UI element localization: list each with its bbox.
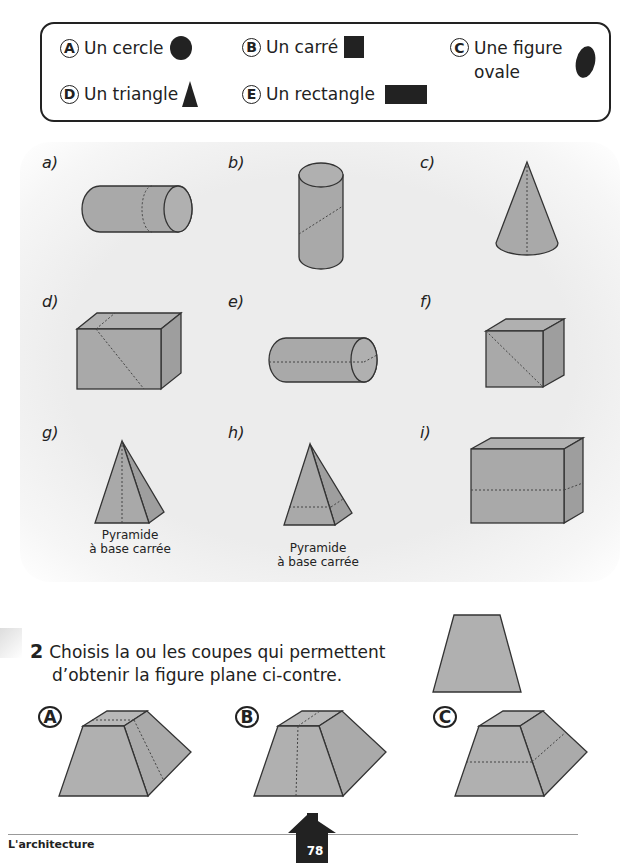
cylinder-e-icon: [268, 337, 383, 387]
question-2: 2Choisis la ou les coupes qui permettent…: [30, 640, 385, 687]
caption-line2: à base carrée: [277, 555, 359, 569]
cylinder-a-icon: [80, 185, 195, 240]
pyramid-g-icon: [94, 440, 166, 525]
rectangle-icon: [385, 85, 427, 104]
legend-box: A Un cercle B Un carré C Une figure oval…: [40, 22, 611, 122]
trapezoid-target-icon: [432, 614, 524, 694]
prism-i-icon: [470, 437, 585, 525]
option-letter: B: [242, 38, 261, 57]
caption-line1: Pyramide: [102, 528, 159, 542]
legend-option-e: E Un rectangle: [242, 84, 427, 104]
legend-option-b: B Un carré: [242, 36, 364, 58]
option-letter: A: [60, 39, 79, 58]
cylinder-b-icon: [298, 160, 348, 272]
option-label-line2: ovale: [474, 62, 520, 82]
cube-f-icon: [485, 318, 565, 390]
solid-label-b: b): [228, 153, 244, 172]
prism-d-icon: [76, 312, 186, 392]
option-label: Une figure ovale: [474, 36, 562, 84]
option-label-line1: Une figure: [474, 38, 562, 58]
section-tab: [0, 628, 22, 658]
solid-label-f: f): [420, 292, 432, 311]
question-line2: d’obtenir la figure plane ci-contre.: [52, 665, 342, 685]
solid-label-d: d): [42, 292, 58, 311]
cone-c-icon: [495, 160, 560, 265]
solid-label-h: h): [228, 423, 244, 442]
solid-label-i: i): [420, 423, 431, 442]
frustum-c-icon[interactable]: [454, 702, 589, 798]
legend-option-c: C Une figure ovale: [450, 36, 595, 84]
triangle-icon: [182, 81, 198, 107]
caption-line1: Pyramide: [290, 541, 347, 555]
footer-section: L'architecture: [8, 838, 95, 851]
page-number: 78: [300, 844, 330, 858]
option-label: Un rectangle: [266, 84, 375, 104]
option-letter: D: [60, 85, 79, 104]
square-icon: [344, 36, 364, 58]
legend-option-a: A Un cercle: [60, 36, 192, 60]
caption-g: Pyramide à base carrée: [70, 528, 190, 556]
solid-label-c: c): [420, 153, 435, 172]
caption-line2: à base carrée: [89, 542, 171, 556]
solid-label-e: e): [228, 292, 244, 311]
solid-label-g: g): [42, 423, 58, 442]
option-label: Un carré: [266, 37, 338, 57]
question-number: 2: [30, 640, 43, 662]
circle-icon: [170, 36, 192, 60]
option-label: Un cercle: [84, 38, 164, 58]
oval-icon: [573, 44, 598, 79]
solid-label-a: a): [42, 153, 58, 172]
legend-option-d: D Un triangle: [60, 81, 198, 107]
option-letter: C: [450, 38, 469, 57]
frustum-b-icon[interactable]: [253, 702, 388, 798]
frustum-a-icon[interactable]: [58, 702, 193, 798]
caption-h: Pyramide à base carrée: [258, 541, 378, 569]
question-line1: Choisis la ou les coupes qui permettent: [49, 642, 385, 662]
pyramid-h-icon: [283, 443, 355, 528]
option-label: Un triangle: [84, 84, 178, 104]
option-letter: E: [242, 85, 261, 104]
